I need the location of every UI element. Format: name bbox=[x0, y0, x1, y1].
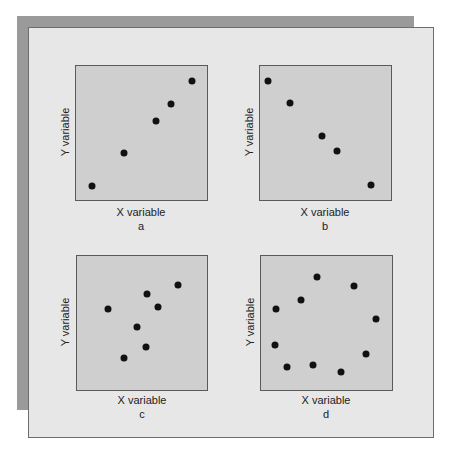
data-point-d bbox=[298, 296, 305, 303]
data-point-d bbox=[338, 368, 345, 375]
panel-label-c: c bbox=[76, 408, 208, 420]
data-point-c bbox=[133, 324, 140, 331]
data-point-d bbox=[283, 363, 290, 370]
data-point-d bbox=[271, 341, 278, 348]
data-point-a bbox=[121, 150, 128, 157]
data-point-d bbox=[314, 273, 321, 280]
data-point-d bbox=[272, 306, 279, 313]
panel-label-d: d bbox=[260, 408, 392, 420]
data-point-a bbox=[153, 117, 160, 124]
y-axis-label-a: Y variable bbox=[59, 87, 71, 177]
data-point-a bbox=[167, 101, 174, 108]
data-point-d bbox=[351, 283, 358, 290]
data-point-b bbox=[367, 181, 374, 188]
x-axis-label-c: X variable bbox=[76, 394, 208, 406]
data-point-c bbox=[174, 281, 181, 288]
data-point-a bbox=[89, 183, 96, 190]
x-axis-label-d: X variable bbox=[260, 394, 392, 406]
data-point-b bbox=[318, 132, 325, 139]
y-axis-label-d: Y variable bbox=[244, 277, 256, 367]
data-point-b bbox=[334, 147, 341, 154]
data-point-a bbox=[189, 78, 196, 85]
scatter-plot-c bbox=[76, 255, 208, 391]
data-point-c bbox=[154, 303, 161, 310]
data-point-c bbox=[104, 306, 111, 313]
y-axis-label-c: Y variable bbox=[59, 277, 71, 367]
x-axis-label-b: X variable bbox=[259, 206, 391, 218]
scatter-plot-d bbox=[260, 255, 393, 391]
data-point-c bbox=[120, 355, 127, 362]
data-point-c bbox=[144, 291, 151, 298]
data-point-b bbox=[286, 100, 293, 107]
data-point-c bbox=[142, 344, 149, 351]
panel-label-b: b bbox=[259, 220, 391, 232]
panel-label-a: a bbox=[75, 220, 207, 232]
data-point-d bbox=[372, 315, 379, 322]
data-point-d bbox=[310, 362, 317, 369]
data-point-b bbox=[265, 78, 272, 85]
y-axis-label-b: Y variable bbox=[243, 87, 255, 177]
scatter-plot-a bbox=[75, 65, 208, 201]
x-axis-label-a: X variable bbox=[75, 206, 207, 218]
data-point-d bbox=[363, 351, 370, 358]
